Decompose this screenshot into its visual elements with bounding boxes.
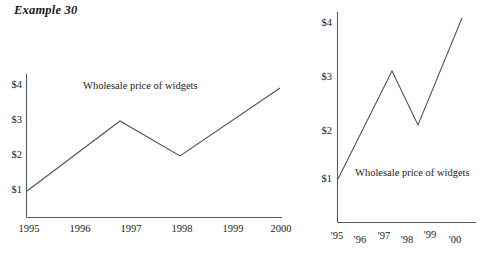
left-ytick-1: $1 bbox=[2, 184, 22, 195]
left-xtick-1996: 1996 bbox=[60, 223, 100, 234]
left-chart-caption: Wholesale price of widgets bbox=[83, 80, 198, 91]
left-xtick-1997: 1997 bbox=[111, 223, 151, 234]
right-ytick-1: $1 bbox=[312, 173, 332, 184]
left-ytick-3: $3 bbox=[2, 114, 22, 125]
right-xtick-00: '00 bbox=[439, 234, 471, 245]
figure-root: Example 30 $4 $3 $2 $1 1995 1996 1997 19… bbox=[0, 0, 483, 254]
right-ytick-3: $3 bbox=[312, 71, 332, 82]
left-ytick-2: $2 bbox=[2, 149, 22, 160]
left-xtick-1995: 1995 bbox=[9, 223, 49, 234]
right-ytick-4: $4 bbox=[312, 17, 332, 28]
left-ytick-4: $4 bbox=[2, 79, 22, 90]
left-xtick-1999: 1999 bbox=[213, 223, 253, 234]
left-xtick-1998: 1998 bbox=[162, 223, 202, 234]
left-series-line bbox=[27, 88, 280, 191]
chart-left: $4 $3 $2 $1 1995 1996 1997 1998 1999 200… bbox=[0, 0, 290, 254]
right-series-line bbox=[338, 18, 462, 179]
chart-left-canvas bbox=[0, 0, 290, 254]
right-chart-caption: Wholesale price of widgets bbox=[355, 167, 470, 178]
right-ytick-2: $2 bbox=[312, 125, 332, 136]
chart-right: $4 $3 $2 $1 '95 '96 '97 '98 '99 '00 Whol… bbox=[290, 0, 483, 254]
